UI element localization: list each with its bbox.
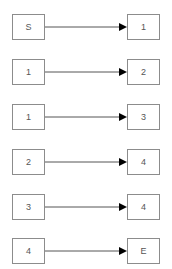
arrow-icon [45, 71, 127, 74]
node-label: 4 [26, 246, 31, 256]
arrow-icon [45, 206, 127, 209]
edge-row: 1 2 [0, 59, 172, 85]
node-box: 4 [12, 238, 45, 264]
node-box: E [127, 238, 160, 264]
arrow-icon [45, 250, 127, 253]
node-label: 3 [26, 202, 31, 212]
node-label: 1 [26, 67, 31, 77]
arrow-icon [45, 26, 127, 29]
arrow-icon [45, 161, 127, 164]
node-box: 2 [127, 59, 160, 85]
node-box: 2 [12, 149, 45, 175]
node-label: 2 [26, 157, 31, 167]
node-box: 1 [12, 59, 45, 85]
edge-row: S 1 [0, 14, 172, 40]
node-box: S [12, 14, 45, 40]
node-box: 3 [12, 194, 45, 220]
node-box: 1 [127, 14, 160, 40]
node-label: 2 [141, 67, 146, 77]
node-label: 4 [141, 202, 146, 212]
edge-row: 2 4 [0, 149, 172, 175]
node-box: 4 [127, 149, 160, 175]
node-box: 4 [127, 194, 160, 220]
edge-row: 4 E [0, 238, 172, 264]
node-label: 1 [141, 22, 146, 32]
arrow-icon [45, 116, 127, 119]
node-label: S [25, 22, 31, 32]
node-label: 1 [26, 112, 31, 122]
node-label: 4 [141, 157, 146, 167]
node-box: 3 [127, 104, 160, 130]
edge-row: 3 4 [0, 194, 172, 220]
node-box: 1 [12, 104, 45, 130]
node-label: 3 [141, 112, 146, 122]
node-label: E [140, 246, 146, 256]
edge-row: 1 3 [0, 104, 172, 130]
